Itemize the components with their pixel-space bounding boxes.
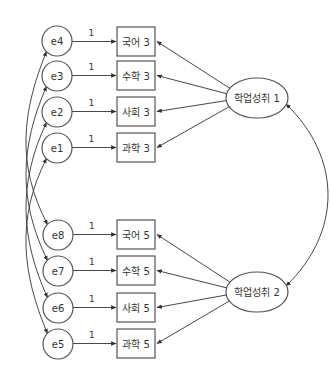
error-term-label: e5	[52, 339, 65, 350]
error-term-e4: e4	[42, 26, 72, 56]
factor-loading-arrow	[157, 42, 230, 89]
observed-variable-c5: 과학 5	[117, 329, 155, 358]
error-term-label: e2	[51, 107, 64, 118]
path-coefficient-label: 1	[89, 28, 95, 38]
error-term-e6: e6	[43, 293, 73, 323]
error-term-label: e8	[52, 230, 65, 241]
path-coefficient-label: 1	[89, 330, 95, 340]
path-coefficient-label: 1	[89, 62, 95, 72]
path-coefficient-label: 1	[89, 98, 95, 108]
factor-loading-arrow	[157, 301, 229, 343]
observed-variable-label: 수학 3	[122, 71, 150, 82]
latent-variable-label: 학업성취 2	[234, 286, 280, 298]
latent-variable-L1: 학업성취 1	[226, 78, 288, 118]
observed-variable-k5: 국어 5	[117, 220, 155, 249]
observed-variable-label: 과학 3	[122, 143, 150, 154]
latent-variable-L2: 학업성취 2	[226, 272, 288, 312]
error-term-e5: e5	[43, 329, 73, 359]
observed-variable-s5: 사회 5	[117, 293, 155, 322]
latent-variable-label: 학업성취 1	[234, 92, 280, 104]
error-term-e1: e1	[42, 133, 72, 163]
error-term-label: e3	[51, 71, 64, 82]
error-term-label: e7	[52, 266, 65, 277]
factor-loading-arrow	[157, 101, 226, 112]
path-coefficient-label: 1	[89, 294, 95, 304]
sem-diagram: 11111111 국어 3수학 3사회 3과학 3국어 5수학 5사회 5과학 …	[0, 0, 331, 378]
error-term-e3: e3	[42, 61, 72, 91]
observed-variable-label: 수학 5	[122, 266, 150, 277]
error-term-label: e4	[51, 36, 64, 47]
path-coefficient-label: 1	[89, 257, 95, 267]
observed-variable-m5: 수학 5	[117, 256, 155, 285]
observed-variable-c3: 과학 3	[117, 133, 155, 162]
factor-loading-arrow	[157, 235, 230, 283]
factor-loading-arrow	[157, 107, 229, 148]
path-coefficient-label: 1	[89, 134, 95, 144]
observed-variable-label: 사회 3	[122, 107, 150, 118]
error-term-label: e6	[52, 303, 65, 314]
error-term-e7: e7	[43, 256, 73, 286]
observed-variable-k3: 국어 3	[117, 27, 155, 56]
error-term-label: e1	[51, 143, 64, 154]
path-coefficient-label: 1	[89, 221, 95, 231]
observed-variable-m3: 수학 3	[117, 61, 155, 90]
observed-variable-label: 국어 3	[122, 37, 150, 48]
factor-loading-arrow	[157, 76, 227, 94]
observed-variable-label: 과학 5	[122, 339, 150, 350]
error-term-e2: e2	[42, 97, 72, 127]
latent-covariance-arrow	[286, 104, 328, 286]
observed-variable-label: 국어 5	[122, 230, 150, 241]
factor-loading-arrow	[157, 295, 226, 307]
error-term-e8: e8	[43, 220, 73, 250]
observed-variable-label: 사회 5	[122, 303, 150, 314]
observed-variable-s3: 사회 3	[117, 97, 155, 126]
